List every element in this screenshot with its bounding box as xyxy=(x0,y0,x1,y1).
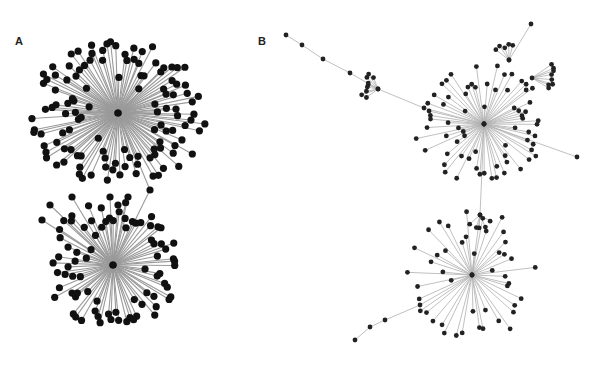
node xyxy=(84,288,91,295)
node xyxy=(31,126,38,133)
node xyxy=(86,57,93,64)
node xyxy=(474,225,479,230)
node xyxy=(86,103,93,110)
node xyxy=(474,166,479,171)
node xyxy=(146,186,153,193)
node xyxy=(516,108,521,113)
node xyxy=(435,253,440,258)
node xyxy=(170,91,177,98)
node xyxy=(412,245,417,250)
node xyxy=(81,62,88,69)
node xyxy=(66,126,73,133)
node xyxy=(446,95,451,100)
node xyxy=(121,163,128,170)
node xyxy=(151,126,158,133)
node xyxy=(174,112,181,119)
node xyxy=(154,272,161,279)
node xyxy=(477,325,482,330)
node xyxy=(364,89,369,94)
node xyxy=(49,63,56,70)
node xyxy=(526,130,531,135)
node xyxy=(463,109,468,114)
node xyxy=(121,51,128,58)
node xyxy=(53,161,60,168)
node xyxy=(172,105,179,112)
node xyxy=(460,240,465,245)
node xyxy=(533,265,538,270)
node xyxy=(446,120,451,125)
node xyxy=(92,232,99,239)
node xyxy=(414,136,419,141)
node xyxy=(445,151,450,156)
node xyxy=(474,64,479,69)
node xyxy=(52,72,59,79)
node xyxy=(162,90,169,97)
node xyxy=(126,154,133,161)
node xyxy=(470,273,475,278)
network-canvas xyxy=(0,0,609,378)
node xyxy=(66,62,73,69)
node xyxy=(418,303,423,308)
node xyxy=(469,82,474,87)
node xyxy=(530,76,535,81)
node xyxy=(494,175,499,180)
node xyxy=(62,271,69,278)
node xyxy=(321,57,326,62)
node xyxy=(549,77,554,82)
node xyxy=(46,201,53,208)
node xyxy=(52,101,59,108)
edge xyxy=(302,45,323,59)
node xyxy=(152,59,159,66)
node xyxy=(49,259,56,266)
node xyxy=(69,273,76,280)
edge xyxy=(370,320,385,327)
node xyxy=(95,135,102,142)
node xyxy=(464,234,469,239)
node xyxy=(175,163,182,170)
node xyxy=(63,76,70,83)
node xyxy=(114,109,121,116)
edge xyxy=(385,305,420,320)
edge xyxy=(509,24,531,60)
node xyxy=(519,79,524,84)
node xyxy=(471,309,476,314)
node xyxy=(83,255,90,262)
node xyxy=(105,310,112,317)
node xyxy=(189,150,196,157)
node xyxy=(284,33,289,38)
node xyxy=(422,106,427,111)
node xyxy=(157,144,164,151)
node xyxy=(169,127,176,134)
node xyxy=(501,230,506,235)
node xyxy=(201,120,208,127)
node xyxy=(429,259,434,264)
node xyxy=(459,154,464,159)
node xyxy=(518,167,523,172)
node xyxy=(98,204,105,211)
node xyxy=(121,146,128,153)
node xyxy=(524,82,529,87)
node xyxy=(115,317,122,324)
node xyxy=(440,81,445,86)
node xyxy=(141,265,148,272)
node xyxy=(189,98,196,105)
node xyxy=(163,105,170,112)
node xyxy=(449,72,454,77)
node xyxy=(57,234,64,241)
node xyxy=(371,75,376,80)
node xyxy=(68,193,75,200)
edge xyxy=(420,275,472,305)
node xyxy=(441,102,446,107)
node xyxy=(504,160,509,165)
node xyxy=(524,88,529,93)
node xyxy=(134,153,141,160)
node xyxy=(97,319,104,326)
node xyxy=(41,142,48,149)
node xyxy=(157,224,164,231)
node xyxy=(51,294,58,301)
node xyxy=(130,45,137,52)
node xyxy=(425,125,430,130)
node xyxy=(53,139,60,146)
node xyxy=(138,301,145,308)
edge xyxy=(419,275,472,299)
